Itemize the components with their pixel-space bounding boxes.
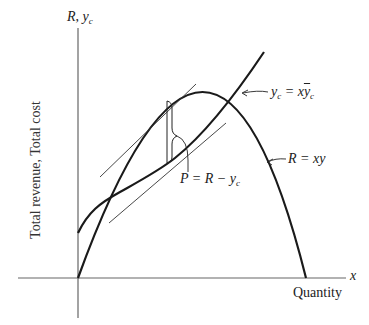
cost-curve-label: yc = xyc — [271, 84, 314, 101]
cost-label-sub2: c — [310, 91, 314, 101]
y-axis-symbol: R, yc — [67, 9, 93, 26]
y-axis-sub: c — [89, 16, 93, 26]
y-axis-R: R — [67, 9, 76, 24]
cost-label-eq: = x — [281, 84, 304, 99]
profit-label-sub: c — [236, 178, 240, 188]
profit-label-text: P = R − y — [180, 171, 236, 186]
y-axis-title: Total revenue, Total cost — [28, 101, 44, 239]
cost-leader-arrow — [243, 91, 268, 93]
profit-label: P = R − yc — [180, 171, 240, 188]
x-axis-symbol: x — [350, 268, 356, 284]
revenue-tangent-line — [100, 84, 196, 177]
x-axis-title: Quantity — [293, 285, 342, 301]
y-axis-separator: , — [76, 9, 83, 24]
revenue-curve-label: R = xy — [288, 151, 325, 167]
